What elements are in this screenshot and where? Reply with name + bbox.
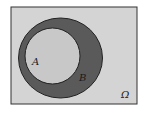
- set-a-label: A: [31, 56, 39, 67]
- venn-diagram: A B Ω: [0, 0, 145, 115]
- set-b-label: B: [78, 72, 86, 83]
- universe-label: Ω: [120, 89, 129, 100]
